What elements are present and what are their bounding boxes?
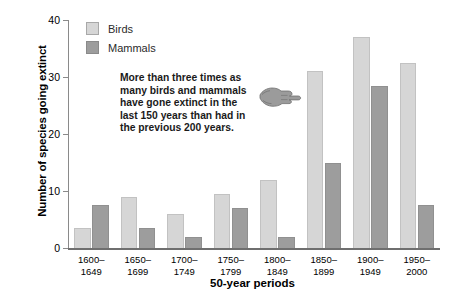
bar-birds-7 — [400, 63, 417, 248]
annotation-callout: More than three times as many birds and … — [120, 72, 266, 135]
annotation-line-2: many birds and mammals — [120, 85, 266, 98]
x-tick-label-line: 1950– — [394, 254, 441, 266]
x-tick-label-1: 1650–1699 — [115, 254, 162, 277]
bar-mammals-3 — [232, 208, 249, 248]
annotation-line-4: last 150 years than had in — [120, 110, 266, 123]
pointing-hand-icon — [258, 82, 302, 110]
bar-group — [353, 20, 388, 248]
y-tick-label-10: 10 — [48, 185, 60, 197]
x-tick-label-line: 1949 — [347, 266, 394, 278]
legend: Birds Mammals — [86, 22, 156, 60]
bar-birds-4 — [260, 180, 277, 248]
bar-mammals-6 — [371, 86, 388, 248]
y-tick-30: 30 — [63, 77, 68, 78]
x-tick-label-0: 1600–1649 — [68, 254, 115, 277]
bar-birds-6 — [353, 37, 370, 248]
bar-birds-5 — [307, 71, 324, 248]
bar-mammals-4 — [278, 237, 295, 248]
bar-group — [400, 20, 435, 248]
y-tick-20: 20 — [63, 134, 68, 135]
x-tick-label-line: 1900– — [347, 254, 394, 266]
annotation-line-3: have gone extinct in the — [120, 97, 266, 110]
bar-chart-figure: Number of species going extinct 40 30 20… — [0, 0, 451, 303]
bar-group — [307, 20, 342, 248]
y-tick-label-30: 30 — [48, 71, 60, 83]
annotation-line-1: More than three times as — [120, 72, 266, 85]
bar-birds-0 — [74, 228, 91, 248]
x-tick-label-line: 1850– — [301, 254, 348, 266]
x-tick-label-5: 1850–1899 — [301, 254, 348, 277]
bar-birds-1 — [121, 197, 138, 248]
bar-mammals-5 — [325, 163, 342, 249]
legend-item-birds: Birds — [86, 22, 156, 35]
x-tick-label-line: 1650– — [115, 254, 162, 266]
legend-label-birds: Birds — [108, 23, 133, 35]
x-tick-label-7: 1950–2000 — [394, 254, 441, 277]
x-tick-label-6: 1900–1949 — [347, 254, 394, 277]
y-tick-40: 40 — [63, 20, 68, 21]
bar-mammals-2 — [185, 237, 202, 248]
x-tick-label-line: 1899 — [301, 266, 348, 278]
bar-mammals-1 — [139, 228, 156, 248]
x-tick-label-2: 1700–1749 — [161, 254, 208, 277]
y-tick-0: 0 — [63, 248, 68, 249]
x-tick-label-line: 1750– — [208, 254, 255, 266]
x-axis-line — [68, 248, 440, 250]
y-tick-label-20: 20 — [48, 128, 60, 140]
y-tick-label-0: 0 — [54, 242, 60, 254]
x-tick-label-line: 1600– — [68, 254, 115, 266]
annotation-line-5: the previous 200 years. — [120, 122, 266, 135]
x-tick-label-4: 1800–1849 — [254, 254, 301, 277]
y-tick-label-40: 40 — [48, 14, 60, 26]
x-tick-label-line: 2000 — [394, 266, 441, 278]
legend-item-mammals: Mammals — [86, 41, 156, 54]
x-axis-title: 50-year periods — [0, 277, 451, 289]
legend-label-mammals: Mammals — [108, 42, 156, 54]
x-tick-label-line: 1849 — [254, 266, 301, 278]
y-tick-10: 10 — [63, 191, 68, 192]
bar-birds-2 — [167, 214, 184, 248]
birds-swatch-icon — [86, 22, 99, 35]
bar-mammals-0 — [92, 205, 109, 248]
x-tick-label-line: 1799 — [208, 266, 255, 278]
x-tick-label-line: 1749 — [161, 266, 208, 278]
bar-mammals-7 — [418, 205, 435, 248]
bar-birds-3 — [214, 194, 231, 248]
y-axis-title: Number of species going extinct — [36, 16, 48, 246]
x-tick-label-line: 1699 — [115, 266, 162, 278]
x-tick-label-line: 1800– — [254, 254, 301, 266]
x-tick-label-line: 1649 — [68, 266, 115, 278]
x-tick-label-line: 1700– — [161, 254, 208, 266]
mammals-swatch-icon — [86, 41, 99, 54]
x-tick-label-3: 1750–1799 — [208, 254, 255, 277]
y-axis-line — [68, 20, 69, 248]
